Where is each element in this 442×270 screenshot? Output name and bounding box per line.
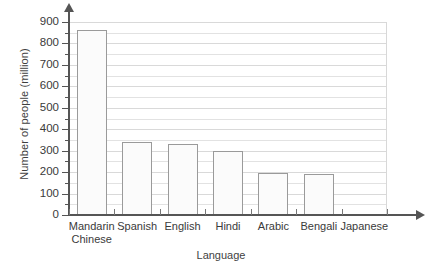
y-axis-tick-label: 400 [40,122,59,134]
x-axis-tick [160,209,161,215]
bar [213,151,243,215]
y-axis-minor-tick [65,161,69,162]
x-axis-tick [342,209,343,215]
y-axis-title: Number of people (million) [18,34,30,194]
x-axis-tick [205,209,206,215]
gridline [69,22,386,23]
gridline [69,119,386,120]
plot-area [69,22,387,215]
gridline [69,108,386,109]
x-axis-arrow-icon [416,210,425,220]
gridline [69,86,386,87]
gridline [69,129,386,130]
y-axis-tick-label: 0 [53,208,59,220]
x-axis-tick [114,209,115,215]
y-axis-tick-label: 900 [40,15,59,27]
gridline [69,97,386,98]
x-axis-tick [387,209,388,215]
y-axis-minor-tick [65,183,69,184]
y-axis-minor-tick [65,97,69,98]
x-axis-tick-label-line2: Chinese [61,233,122,246]
x-axis-tick-label: Japanese [334,220,395,233]
gridline [69,54,386,55]
bar [77,30,107,215]
y-axis-tick [62,151,69,152]
y-axis-minor-tick [65,76,69,77]
y-axis-tick [62,43,69,44]
bar-chart: Number of people (million) Language 0100… [0,0,442,270]
y-axis-tick-label: 500 [40,101,59,113]
y-axis-tick [62,194,69,195]
y-axis-tick [62,172,69,173]
x-axis-tick [69,209,70,215]
y-axis-tick [62,86,69,87]
y-axis-tick-label: 100 [40,187,59,199]
y-axis-line [68,10,70,216]
bar [168,144,198,215]
y-axis-tick [62,215,69,216]
y-axis-arrow-icon [64,3,74,12]
y-axis-tick-label: 300 [40,144,59,156]
y-axis-minor-tick [65,33,69,34]
y-axis-minor-tick [65,119,69,120]
gridline [69,76,386,77]
x-axis-tick [296,209,297,215]
y-axis-tick-label: 200 [40,165,59,177]
x-axis-title: Language [0,249,442,261]
bar [122,142,152,215]
gridline [69,140,386,141]
y-axis-tick-label: 700 [40,58,59,70]
gridline [69,33,386,34]
y-axis-tick [62,65,69,66]
gridline [69,65,386,66]
x-axis-tick [251,209,252,215]
y-axis-tick-label: 600 [40,79,59,91]
y-axis-tick [62,22,69,23]
y-axis-minor-tick [65,54,69,55]
y-axis-tick-label: 800 [40,36,59,48]
y-axis-tick [62,129,69,130]
bar [258,173,288,215]
y-axis-minor-tick [65,204,69,205]
gridline [69,43,386,44]
bar [304,174,334,215]
x-axis-line [68,214,418,216]
y-axis-minor-tick [65,140,69,141]
y-axis-tick [62,108,69,109]
